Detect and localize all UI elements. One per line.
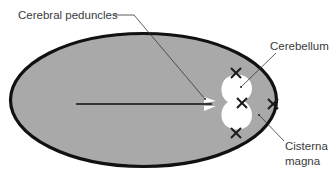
label-cisterna-magna-line2: magna	[285, 155, 320, 168]
leader-dot	[258, 114, 260, 116]
label-cerebral-peduncles: Cerebral peduncles	[18, 9, 118, 22]
leader-dot	[240, 86, 242, 88]
label-cisterna-magna-line1: Cisterna	[285, 140, 328, 153]
diagram-canvas	[0, 0, 333, 177]
label-cerebellum: Cerebellum	[270, 40, 329, 53]
leader-dot	[204, 98, 206, 100]
